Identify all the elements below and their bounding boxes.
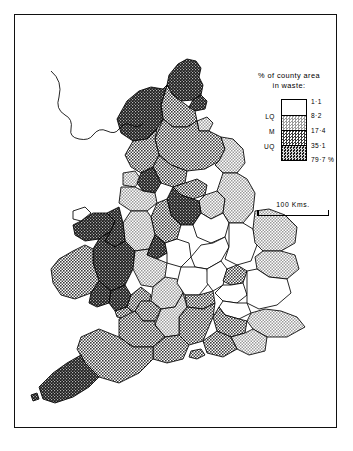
legend-value-2: 17·4 bbox=[311, 127, 326, 134]
figure-frame: % of county area in waste: LQ M UQ 1·1 8… bbox=[14, 14, 337, 428]
legend-value-4: 79·7 % bbox=[311, 156, 334, 163]
region-isles-of-scilly bbox=[31, 393, 39, 401]
legend-value-labels: 1·1 8·2 17·4 35·1 79·7 % bbox=[311, 99, 351, 161]
legend-body: LQ M UQ 1·1 8·2 17·4 35·1 79·7 % bbox=[243, 99, 335, 165]
legend-swatch-class-2 bbox=[282, 115, 306, 130]
legend-value-0: 1·1 bbox=[311, 98, 322, 105]
legend-label-lq: LQ bbox=[265, 113, 275, 120]
region-dyfed bbox=[51, 245, 99, 299]
legend-quartile-labels: LQ M UQ bbox=[243, 99, 277, 161]
region-oxfordshire bbox=[177, 267, 209, 295]
scale-bar-label: 100 Kms. bbox=[257, 201, 329, 208]
legend-value-3: 35·1 bbox=[311, 142, 326, 149]
map-figure: % of county area in waste: LQ M UQ 1·1 8… bbox=[0, 0, 353, 451]
region-warwickshire bbox=[165, 239, 191, 267]
region-cambridgeshire bbox=[225, 223, 257, 265]
region-cleveland bbox=[197, 117, 213, 131]
legend-swatch-class-3 bbox=[282, 130, 306, 145]
legend-swatch-class-1 bbox=[282, 100, 306, 115]
scale-bar-line bbox=[257, 215, 329, 217]
region-isle-of-wight bbox=[189, 349, 205, 359]
legend-title: % of county area in waste: bbox=[243, 71, 335, 90]
legend-swatch-box bbox=[281, 99, 307, 161]
legend-swatch-class-4 bbox=[282, 145, 306, 160]
legend: % of county area in waste: LQ M UQ 1·1 8… bbox=[243, 71, 335, 165]
legend-value-1: 8·2 bbox=[311, 112, 322, 119]
scale-tick-end bbox=[328, 210, 330, 216]
scale-bar-rule bbox=[257, 209, 329, 216]
scale-bar: 100 Kms. bbox=[257, 201, 329, 216]
legend-label-uq: UQ bbox=[264, 143, 275, 150]
legend-label-m: M bbox=[269, 128, 275, 135]
